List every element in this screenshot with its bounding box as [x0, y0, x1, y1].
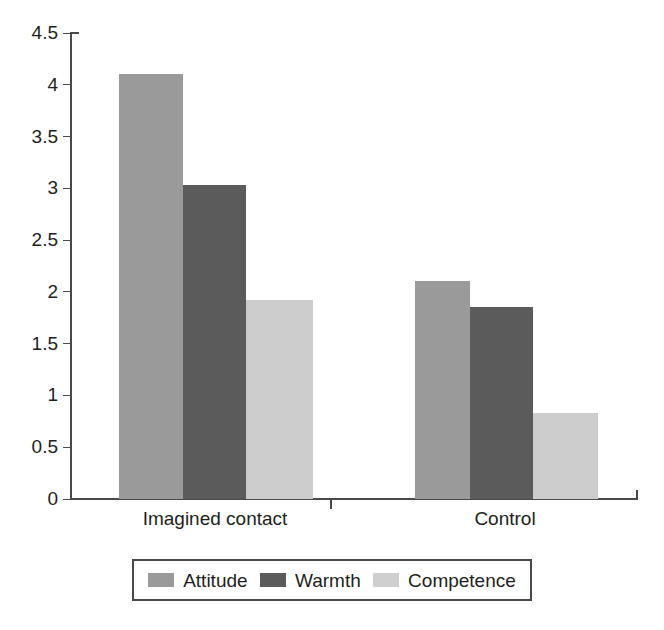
legend-label-attitude: Attitude	[183, 571, 247, 590]
y-axis-tick-label: 0.5	[8, 437, 58, 456]
y-axis-tick	[63, 447, 71, 448]
y-axis-tick	[63, 136, 71, 137]
bar-control-competence	[533, 413, 598, 499]
x-axis-group-separator-tick	[330, 500, 332, 509]
legend-label-competence: Competence	[408, 571, 516, 590]
legend-swatch-attitude-icon	[148, 573, 174, 587]
y-axis-tick-label: 4	[8, 75, 58, 94]
y-axis-tick	[63, 240, 71, 241]
category-label-imagined-contact: Imagined contact	[125, 508, 305, 530]
bar-imagined-contact-competence	[246, 300, 313, 499]
y-axis-tick	[63, 188, 71, 189]
y-axis-tick-label: 1.5	[8, 334, 58, 353]
y-axis-tick	[63, 499, 71, 500]
bar-control-attitude	[415, 281, 470, 500]
legend-item-attitude: Attitude	[148, 571, 247, 590]
bar-control-warmth	[470, 307, 533, 499]
y-axis-tick-label: 0	[8, 489, 58, 508]
y-axis-tick	[63, 291, 71, 292]
bar-imagined-contact-attitude	[119, 74, 183, 499]
legend-item-warmth: Warmth	[260, 571, 361, 590]
legend-label-warmth: Warmth	[295, 571, 361, 590]
legend: Attitude Warmth Competence	[132, 559, 532, 601]
y-axis-tick-label: 1	[8, 385, 58, 404]
y-axis-tick	[63, 84, 71, 85]
legend-item-competence: Competence	[373, 571, 516, 590]
plot-area	[71, 33, 638, 499]
legend-swatch-competence-icon	[373, 573, 399, 587]
y-axis-tick	[63, 395, 71, 396]
y-axis-tick-label: 3.5	[8, 127, 58, 146]
y-axis-tick	[63, 343, 71, 344]
bar-chart: 4.543.532.521.510.50 Imagined contact Co…	[0, 0, 664, 630]
y-axis-tick-label: 4.5	[8, 23, 58, 42]
y-axis-tick-label: 2	[8, 282, 58, 301]
y-axis-tick-label: 2.5	[8, 230, 58, 249]
legend-swatch-warmth-icon	[260, 573, 286, 587]
y-axis-tick	[63, 33, 71, 34]
category-label-control: Control	[425, 508, 585, 530]
bar-imagined-contact-warmth	[183, 185, 246, 499]
y-axis-tick-label: 3	[8, 178, 58, 197]
